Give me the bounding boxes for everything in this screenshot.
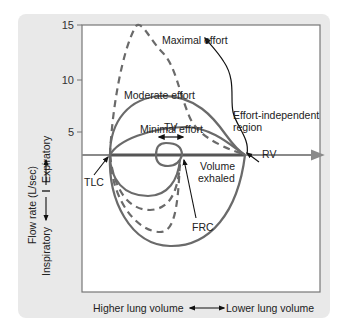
y-ticks bbox=[77, 25, 82, 132]
lower-lung-volume-label: Lower lung volume bbox=[226, 302, 314, 314]
higher-lung-volume-label: Higher lung volume bbox=[93, 302, 184, 314]
y-axis-label: Flow rate (L/sec) bbox=[26, 166, 38, 244]
y-axis-label-group: Flow rate (L/sec) bbox=[26, 166, 38, 244]
inspiratory-label: Inspiratory bbox=[40, 226, 52, 276]
y-tick-15: 15 bbox=[62, 19, 74, 31]
plot-area bbox=[82, 25, 320, 292]
volume-label: Volume bbox=[200, 160, 235, 172]
y-tick-10: 10 bbox=[62, 74, 74, 86]
tv-label: TV bbox=[164, 121, 177, 133]
flow-volume-diagram: 15 10 5 Flow rate (L/sec) Inspiratory Ex… bbox=[0, 0, 344, 336]
region-label: region bbox=[233, 121, 262, 133]
effort-independent-label: Effort-independent bbox=[233, 109, 319, 121]
y-tick-5: 5 bbox=[68, 126, 74, 138]
maximal-effort-label: Maximal effort bbox=[162, 34, 228, 46]
frc-label: FRC bbox=[192, 221, 214, 233]
rv-label: RV bbox=[262, 148, 276, 160]
exhaled-label: exhaled bbox=[198, 172, 235, 184]
tlc-label: TLC bbox=[84, 176, 104, 188]
moderate-effort-label: Moderate effort bbox=[124, 89, 195, 101]
